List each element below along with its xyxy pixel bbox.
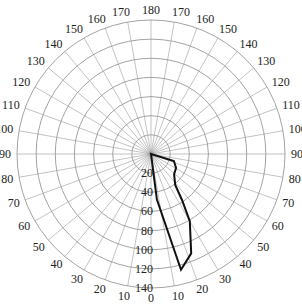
angular-tick-label: 170 bbox=[112, 5, 130, 19]
angular-tick-label: 140 bbox=[240, 37, 258, 51]
angular-tick-label: 170 bbox=[172, 5, 190, 19]
angular-tick-label: 80 bbox=[289, 172, 301, 186]
angular-tick-label: 60 bbox=[18, 219, 30, 233]
angular-tick-label: 130 bbox=[257, 54, 275, 68]
radial-tick-label: 100 bbox=[135, 243, 153, 257]
angular-tick-label: 150 bbox=[65, 22, 83, 36]
angular-tick-label: 110 bbox=[2, 98, 20, 112]
angular-tick-label: 100 bbox=[289, 122, 302, 136]
angular-tick-label: 120 bbox=[12, 75, 30, 89]
angular-tick-label: 40 bbox=[50, 257, 62, 271]
angular-tick-label: 110 bbox=[282, 98, 300, 112]
polar-chart: 20406080100120140 0102030405060708090100… bbox=[0, 0, 302, 307]
angular-tick-label: 20 bbox=[94, 282, 106, 296]
angular-tick-label: 90 bbox=[0, 147, 11, 161]
angular-tick-label: 160 bbox=[196, 12, 214, 26]
angular-tick-label: 50 bbox=[257, 240, 269, 254]
angular-tick-label: 140 bbox=[44, 37, 62, 51]
angular-tick-label: 20 bbox=[196, 282, 208, 296]
angular-tick-label: 120 bbox=[272, 75, 290, 89]
angular-tick-label: 0 bbox=[148, 291, 154, 305]
radial-tick-label: 60 bbox=[141, 204, 153, 218]
radial-tick-label: 120 bbox=[135, 262, 153, 276]
angular-tick-label: 30 bbox=[219, 272, 231, 286]
angular-tick-label: 60 bbox=[272, 219, 284, 233]
angular-tick-label: 80 bbox=[1, 172, 13, 186]
angular-tick-label: 30 bbox=[71, 272, 83, 286]
angular-tick-label: 50 bbox=[33, 240, 45, 254]
angular-tick-label: 100 bbox=[0, 122, 13, 136]
angular-tick-label: 150 bbox=[219, 22, 237, 36]
radial-tick-label: 40 bbox=[141, 185, 153, 199]
angular-tick-label: 10 bbox=[172, 289, 184, 303]
radial-tick-label: 20 bbox=[141, 166, 153, 180]
angular-tick-label: 160 bbox=[88, 12, 106, 26]
angular-tick-label: 70 bbox=[8, 196, 20, 210]
angular-tick-label: 10 bbox=[118, 289, 130, 303]
angular-tick-label: 130 bbox=[27, 54, 45, 68]
angular-tick-label: 70 bbox=[282, 196, 294, 210]
angular-tick-label: 180 bbox=[142, 3, 160, 17]
angular-tick-label: 90 bbox=[291, 147, 302, 161]
radial-tick-label: 80 bbox=[141, 224, 153, 238]
angular-tick-label: 40 bbox=[240, 257, 252, 271]
